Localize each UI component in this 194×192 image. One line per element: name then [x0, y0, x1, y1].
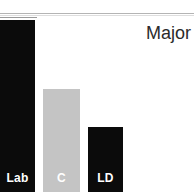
bar-label-lab: Lab — [7, 172, 29, 192]
bar-lab: Lab — [0, 20, 35, 192]
chart-annotation-major: Major — [146, 24, 191, 44]
bar-label-c: C — [57, 172, 66, 192]
chart-screenshot: Lab C LD Major — [0, 0, 194, 192]
bar-c: C — [43, 89, 80, 192]
bar-label-ld: LD — [97, 172, 113, 192]
bar-ld: LD — [88, 127, 123, 192]
